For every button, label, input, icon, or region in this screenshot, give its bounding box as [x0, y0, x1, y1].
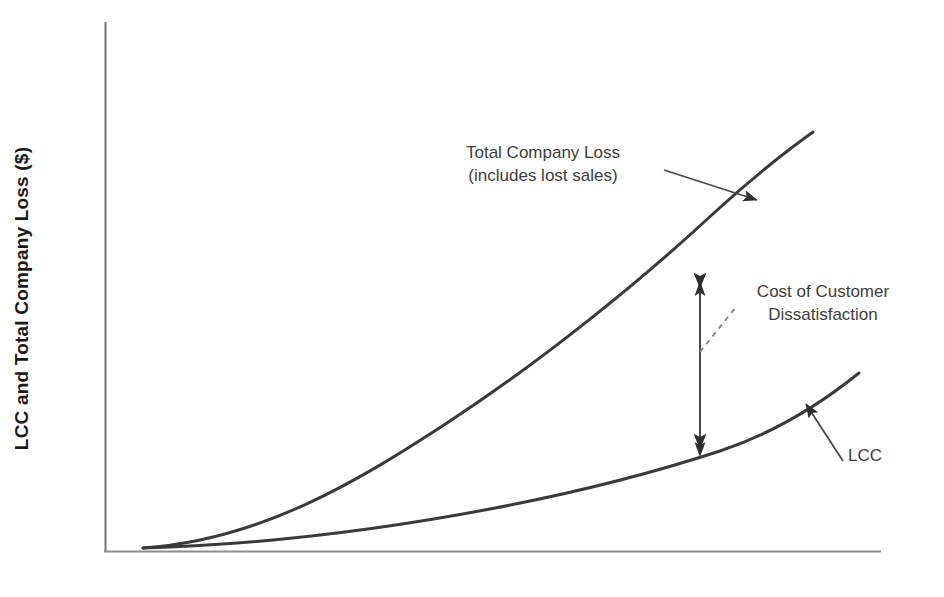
chart-figure: LCC and Total Company Loss ($) Total Com…: [0, 0, 944, 597]
leader-arrow-lcc: [806, 404, 843, 461]
curve-total-company-loss: [143, 132, 813, 548]
leader-arrow-total-company-loss: [664, 170, 757, 200]
annotation-total-company-loss-line2: (includes lost sales): [437, 165, 649, 188]
annotation-total-company-loss: Total Company Loss (includes lost sales): [437, 142, 649, 188]
annotation-lcc-label: LCC: [848, 445, 908, 468]
annotation-cost-dissatisfaction-line1: Cost of Customer: [723, 281, 923, 304]
annotation-cost-dissatisfaction-line2: Dissatisfaction: [723, 304, 923, 327]
annotation-lcc: LCC: [848, 445, 908, 468]
curve-lcc: [143, 373, 859, 548]
annotation-cost-of-customer-dissatisfaction: Cost of Customer Dissatisfaction: [723, 281, 923, 327]
annotation-total-company-loss-line1: Total Company Loss: [437, 142, 649, 165]
